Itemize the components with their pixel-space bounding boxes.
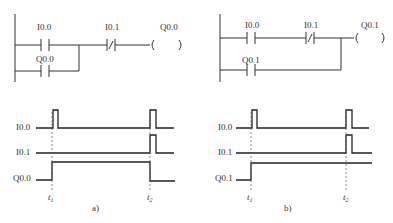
waveform-q01-b	[236, 163, 372, 180]
timing-diagram-b: I0.0 I0.1 Q0.1 t1 t2 b)	[215, 110, 372, 213]
coil-q00-a	[152, 40, 154, 50]
signal-label-i01-a: I0.1	[16, 147, 30, 157]
label-contact2-b: I0.1	[304, 20, 318, 30]
waveform-i01-a	[36, 135, 174, 153]
label-coil-a: Q0.0	[160, 22, 178, 32]
signal-label-i00-a: I0.0	[16, 122, 31, 132]
waveform-q00-a	[36, 162, 175, 181]
caption-a: a)	[92, 203, 99, 213]
t2-label-a: t2	[147, 192, 153, 203]
plc-diagram: I0.0 I0.1 Q0.0 Q0.0 I0.0 I0.1 Q0.1 Q0.1 …	[0, 0, 393, 223]
label-holding-a: Q0.0	[36, 54, 54, 64]
label-contact1-b: I0.0	[245, 20, 260, 30]
t1-label-b: t1	[247, 192, 253, 203]
caption-b: b)	[284, 203, 292, 213]
ladder-diagram-b: I0.0 I0.1 Q0.1 Q0.1	[220, 14, 384, 82]
waveform-i01-b	[236, 135, 372, 153]
waveform-i00-b	[236, 110, 369, 128]
label-contact2-a: I0.1	[105, 22, 119, 32]
signal-label-q01-b: Q0.1	[215, 173, 233, 183]
signal-label-i01-b: I0.1	[218, 147, 232, 157]
t1-label-a: t1	[48, 192, 54, 203]
timing-diagram-a: I0.0 I0.1 Q0.0 t1 t2 a)	[13, 110, 175, 213]
label-coil-b: Q0.1	[361, 20, 379, 30]
label-holding-b: Q0.1	[242, 55, 260, 65]
waveform-i00-a	[36, 110, 174, 128]
signal-label-i00-b: I0.0	[218, 122, 233, 132]
coil-q01-b	[356, 33, 358, 43]
signal-label-q00-a: Q0.0	[13, 173, 31, 183]
label-contact1-a: I0.0	[37, 22, 52, 32]
ladder-diagram-a: I0.0 I0.1 Q0.0 Q0.0	[15, 14, 181, 82]
t2-label-b: t2	[343, 192, 349, 203]
